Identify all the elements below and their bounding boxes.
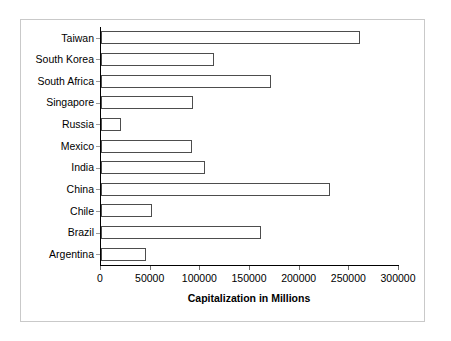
category-label: India	[71, 162, 94, 173]
category-tick	[96, 189, 100, 190]
category-label: Chile	[70, 206, 94, 217]
bar	[101, 75, 271, 88]
category-label: South Korea	[36, 54, 94, 65]
x-tick-label: 200000	[281, 273, 316, 284]
category-label: Taiwan	[61, 33, 94, 44]
category-tick	[96, 124, 100, 125]
bar	[101, 183, 330, 196]
bar	[101, 248, 146, 261]
category-tick	[96, 211, 100, 212]
category-label: China	[67, 184, 94, 195]
category-tick	[96, 38, 100, 39]
category-tick	[96, 59, 100, 60]
category-label: Mexico	[61, 141, 94, 152]
category-tick	[96, 233, 100, 234]
bar	[101, 140, 192, 153]
bar	[101, 96, 193, 109]
category-label: Russia	[62, 119, 94, 130]
x-tick-mark	[299, 266, 300, 270]
category-tick	[96, 103, 100, 104]
bar-row: Chile	[100, 204, 398, 217]
bar	[101, 31, 360, 44]
bar-row: Brazil	[100, 226, 398, 239]
plot-area: TaiwanSouth KoreaSouth AfricaSingaporeRu…	[100, 27, 398, 265]
bar-row: Taiwan	[100, 31, 398, 44]
bar-row: Singapore	[100, 96, 398, 109]
x-tick-label: 300000	[380, 273, 415, 284]
bar-row: Argentina	[100, 248, 398, 261]
bar-row: South Korea	[100, 53, 398, 66]
x-tick-label: 0	[97, 273, 103, 284]
category-label: Singapore	[46, 97, 94, 108]
bar	[101, 118, 121, 131]
bar-row: China	[100, 183, 398, 196]
bar-row: India	[100, 161, 398, 174]
x-tick-mark	[398, 266, 399, 270]
category-tick	[96, 168, 100, 169]
bar	[101, 204, 152, 217]
category-label: South Africa	[37, 76, 94, 87]
x-tick-mark	[199, 266, 200, 270]
x-tick-label: 100000	[182, 273, 217, 284]
category-tick	[96, 81, 100, 82]
x-tick-mark	[100, 266, 101, 270]
bar	[101, 53, 214, 66]
bar	[101, 161, 205, 174]
x-axis-title: Capitalization in Millions	[100, 292, 398, 304]
chart-frame: TaiwanSouth KoreaSouth AfricaSingaporeRu…	[20, 19, 425, 322]
x-tick-label: 250000	[331, 273, 366, 284]
bar-row: South Africa	[100, 75, 398, 88]
x-tick-label: 50000	[135, 273, 164, 284]
bar	[101, 226, 261, 239]
category-tick	[96, 146, 100, 147]
category-label: Argentina	[49, 249, 94, 260]
x-tick-mark	[249, 266, 250, 270]
category-tick	[96, 254, 100, 255]
bar-row: Russia	[100, 118, 398, 131]
x-tick-label: 150000	[231, 273, 266, 284]
bar-row: Mexico	[100, 140, 398, 153]
x-tick-mark	[150, 266, 151, 270]
x-tick-mark	[348, 266, 349, 270]
category-label: Brazil	[68, 227, 94, 238]
